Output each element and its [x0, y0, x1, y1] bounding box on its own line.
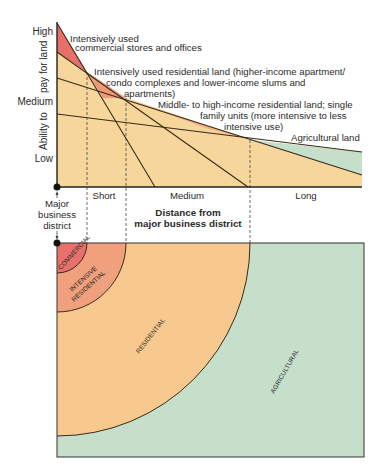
label-middle-1: Middle- to high-income residential land;…	[158, 99, 353, 110]
arrow-down-icon	[56, 236, 59, 240]
x-tick-long: Long	[295, 190, 316, 201]
label-middle-2: family units (more intensive to less	[200, 110, 347, 121]
label-intensive-1: Intensively used residential land (highe…	[94, 66, 346, 77]
bid-rent-chart: High Medium Low Ability to pay for land …	[17, 22, 362, 243]
y-axis-title-part1: Ability to	[38, 112, 49, 150]
y-axis-title-part2: pay for land	[38, 41, 49, 93]
origin-label-2: business	[38, 209, 76, 220]
y-tick-low: Low	[35, 153, 54, 164]
map-origin-dot	[54, 240, 61, 247]
bid-rent-diagram: High Medium Low Ability to pay for land …	[0, 0, 378, 470]
x-axis-title-1: Distance from	[155, 207, 221, 218]
arrow-up-icon	[56, 191, 59, 195]
x-axis-title-2: major business district	[134, 218, 242, 229]
y-tick-high: High	[32, 26, 53, 37]
origin-dot	[54, 184, 61, 191]
label-intensive-2: condo complexes and lower-income slums a…	[106, 77, 305, 88]
y-tick-medium: Medium	[17, 96, 53, 107]
x-tick-short: Short	[93, 190, 116, 201]
label-commercial-2: commercial stores and offices	[75, 42, 202, 53]
label-agricultural: Agricultural land	[291, 132, 360, 143]
origin-label-1: Major	[45, 198, 70, 209]
x-tick-medium: Medium	[170, 190, 204, 201]
origin-label-3: district	[43, 220, 71, 231]
label-middle-3: intensive use)	[224, 121, 283, 132]
label-intensive-3: apartments)	[124, 88, 175, 99]
